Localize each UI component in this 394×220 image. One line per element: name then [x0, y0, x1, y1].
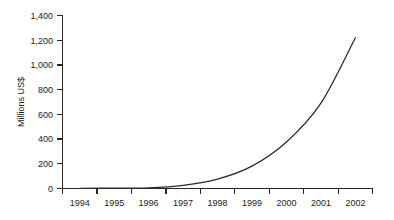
x-tick-label: 1999 — [242, 198, 262, 208]
line-chart: 1,400 1,200 1,000 800 600 400 200 0 Mill… — [0, 0, 394, 220]
y-axis-title: Millions US$ — [16, 77, 26, 127]
y-tick-label: 800 — [38, 85, 53, 95]
y-tick-label: 200 — [38, 159, 53, 169]
x-tick-label: 2001 — [311, 198, 331, 208]
x-axis-tick-labels: 1994 1995 1996 1997 1998 1999 2000 2001 … — [70, 198, 366, 208]
x-tick-label: 1994 — [70, 198, 90, 208]
x-tick-label: 1996 — [139, 198, 159, 208]
y-tick-label: 400 — [38, 134, 53, 144]
y-axis-ticks — [57, 16, 63, 189]
x-tick-label: 1995 — [104, 198, 124, 208]
y-tick-label: 1,400 — [30, 11, 53, 21]
x-tick-label: 1997 — [173, 198, 193, 208]
y-axis-tick-labels: 1,400 1,200 1,000 800 600 400 200 0 — [30, 11, 53, 194]
y-axis-group: 1,400 1,200 1,000 800 600 400 200 0 Mill… — [16, 11, 63, 194]
y-tick-label: 1,000 — [30, 60, 53, 70]
y-tick-label: 600 — [38, 110, 53, 120]
y-tick-label: 0 — [48, 184, 53, 194]
x-axis-ticks — [63, 189, 373, 195]
chart-screenshot: 1,400 1,200 1,000 800 600 400 200 0 Mill… — [0, 0, 394, 220]
data-series-line — [80, 38, 356, 189]
x-axis-group: 1994 1995 1996 1997 1998 1999 2000 2001 … — [63, 189, 374, 209]
x-tick-label: 1998 — [208, 198, 228, 208]
y-tick-label: 1,200 — [30, 36, 53, 46]
x-tick-label: 2000 — [276, 198, 296, 208]
x-tick-label: 2002 — [345, 198, 365, 208]
